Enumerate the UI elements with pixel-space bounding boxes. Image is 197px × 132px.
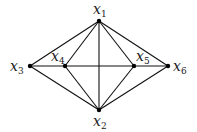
edge-x1-x4 [65, 21, 99, 66]
edge-x2-x4 [65, 66, 99, 110]
label-x5: x5 [136, 48, 150, 66]
edge-x2-x6 [99, 66, 168, 110]
node-x1 [97, 19, 101, 23]
label-x2: x2 [93, 113, 107, 131]
edge-x1-x6 [99, 21, 168, 66]
node-x3 [28, 64, 32, 68]
label-x1: x1 [93, 1, 107, 19]
edge-x2-x5 [99, 66, 134, 110]
node-x6 [166, 64, 170, 68]
edge-x2-x3 [30, 66, 99, 110]
graph-diagram: x1x2x3x4x5x6 [0, 0, 197, 132]
label-x4: x4 [51, 48, 65, 66]
label-x3: x3 [10, 58, 24, 76]
label-x6: x6 [173, 58, 187, 76]
node-x2 [97, 108, 101, 112]
node-x5 [132, 64, 136, 68]
edge-x1-x5 [99, 21, 134, 66]
